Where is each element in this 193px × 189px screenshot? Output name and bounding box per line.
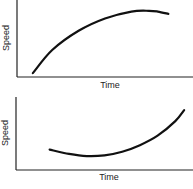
speed-curve <box>50 110 185 156</box>
x-axis-label: Time <box>99 172 119 182</box>
y-axis-label: Speed <box>1 25 11 51</box>
x-axis-label: Time <box>100 80 120 90</box>
y-axis-label: Speed <box>0 120 10 146</box>
chart-top: Time Speed <box>1 0 193 90</box>
chart-bottom: Time Speed <box>0 97 193 182</box>
charts: Time Speed Time Speed <box>0 0 193 189</box>
speed-curve <box>33 11 169 73</box>
